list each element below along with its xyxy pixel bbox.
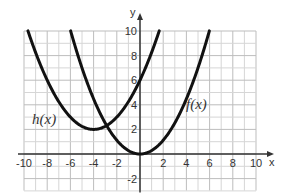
y-axis-label: y [130,6,136,18]
y-tick-label: 10 [125,25,137,37]
x-tick-label: -4 [89,157,99,169]
x-tick-label: -8 [42,157,52,169]
x-tick-label: 2 [160,157,166,169]
x-tick-label: 4 [183,157,189,169]
h-label: h(x) [32,111,56,128]
y-tick-label: 4 [131,99,137,111]
y-tick-label: 8 [131,50,137,62]
y-tick-label: -2 [127,173,137,185]
x-tick-label: 10 [250,157,262,169]
y-tick-label: 2 [131,123,137,135]
x-tick-label: -2 [112,157,122,169]
x-tick-label: -10 [16,157,32,169]
f-label: f(x) [186,96,207,113]
x-axis-label: x [269,156,275,168]
x-tick-label: 8 [230,157,236,169]
x-tick-label: -6 [66,157,76,169]
y-tick-label: 6 [131,74,137,86]
x-tick-label: 6 [207,157,213,169]
parabola-graph: -10-8-6-4-2246810-2246810 h(x) f(x) y x [0,0,291,193]
